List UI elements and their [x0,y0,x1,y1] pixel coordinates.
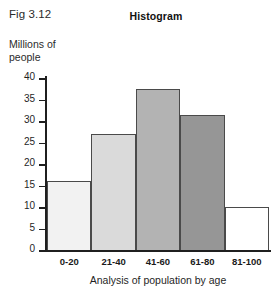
y-axis-tick-label: 25 [24,136,35,147]
y-axis-tick: 20 [39,164,47,166]
y-axis-tick: 40 [39,78,47,80]
y-axis-tick-label: 15 [24,179,35,190]
y-axis-tick: 15 [39,186,47,188]
y-axis-label-line1: Millions of [9,38,79,51]
x-axis-line [45,250,271,252]
histogram-bar [47,181,91,250]
y-axis-tick: 10 [39,207,47,209]
x-axis-tick-labels: 0-2021-4041-6061-8081-100 [47,256,269,270]
y-axis-tick-label: 0 [29,243,35,254]
bar-series [47,78,269,250]
y-axis-tick: 0 [39,250,47,252]
y-axis-label-line2: people [9,51,79,64]
y-axis-tick: 35 [39,100,47,102]
histogram-bar [136,89,180,250]
x-axis-tick-label: 81-100 [221,256,273,267]
histogram-bar [91,134,135,250]
x-axis-title: Analysis of population by age [40,274,276,286]
y-axis-tick: 30 [39,121,47,123]
y-axis-tick-label: 35 [24,93,35,104]
y-axis-tick: 25 [39,143,47,145]
y-axis-tick-label: 30 [24,114,35,125]
y-axis-tick-label: 5 [29,222,35,233]
histogram-bar [225,207,269,250]
y-axis-tick-label: 40 [24,71,35,82]
chart-title: Histogram [0,10,280,22]
y-axis-label: Millions of people [9,38,79,64]
histogram-bar [180,115,224,250]
y-axis-tick: 5 [39,229,47,231]
y-axis-tick-label: 10 [24,200,35,211]
plot-area: 0510152025303540 [47,78,269,250]
y-axis-tick-label: 20 [24,157,35,168]
